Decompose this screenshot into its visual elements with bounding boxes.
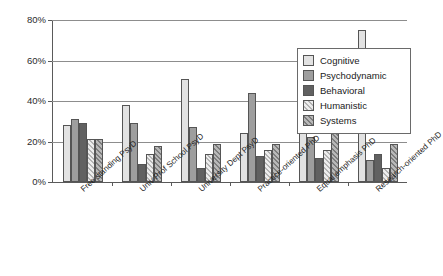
legend-swatch-icon: [303, 70, 314, 81]
y-tick-label: 20%: [27, 137, 46, 147]
bar-cognitive: [63, 125, 71, 182]
bar-behavioral: [374, 154, 382, 182]
bar-behavioral: [138, 164, 146, 182]
x-label-cell: Research-oriented PhD: [348, 183, 407, 276]
x-label-cell: Practice-oriented PhD: [230, 183, 289, 276]
y-tick-mark: [48, 142, 52, 143]
y-tick-label: 80%: [27, 15, 46, 25]
legend-swatch-icon: [303, 115, 314, 126]
y-axis: 80%60%40%20%0%: [0, 0, 46, 276]
x-axis-labels: Free standing PsyDUniv Prof School PsyDU…: [53, 183, 407, 276]
legend-swatch-icon: [303, 55, 314, 66]
legend-item-psychodynamic[interactable]: Psychodynamic: [303, 68, 405, 83]
x-label-cell: University Dept PsyD: [171, 183, 230, 276]
legend-label: Behavioral: [320, 85, 365, 96]
y-tick-label: 40%: [27, 96, 46, 106]
x-label-cell: Free standing PsyD: [53, 183, 112, 276]
legend-label: Psychodynamic: [320, 70, 387, 81]
bar-cognitive: [181, 79, 189, 182]
chart-legend: CognitivePsychodynamicBehavioralHumanist…: [297, 48, 411, 134]
bar-psychodynamic: [130, 123, 138, 182]
legend-label: Cognitive: [320, 55, 360, 66]
y-tick-mark: [48, 101, 52, 102]
legend-item-systems[interactable]: Systems: [303, 113, 405, 128]
legend-item-behavioral[interactable]: Behavioral: [303, 83, 405, 98]
y-tick-label: 0%: [32, 177, 46, 187]
y-tick-label: 60%: [27, 56, 46, 66]
legend-item-cognitive[interactable]: Cognitive: [303, 53, 405, 68]
bar-behavioral: [79, 123, 87, 182]
legend-swatch-icon: [303, 100, 314, 111]
y-tick-mark: [48, 61, 52, 62]
legend-item-humanistic[interactable]: Humanistic: [303, 98, 405, 113]
legend-swatch-icon: [303, 85, 314, 96]
bar-group: [53, 20, 112, 182]
y-tick-mark: [48, 182, 52, 183]
bar-behavioral: [256, 156, 264, 182]
legend-label: Systems: [320, 115, 356, 126]
y-tick-mark: [48, 20, 52, 21]
legend-label: Humanistic: [320, 100, 367, 111]
x-label-cell: Equal emphasis PhD: [289, 183, 348, 276]
x-label-cell: Univ Prof School PsyD: [112, 183, 171, 276]
bar-psychodynamic: [71, 119, 79, 182]
bar-psychodynamic: [366, 160, 374, 182]
bar-behavioral: [315, 158, 323, 182]
